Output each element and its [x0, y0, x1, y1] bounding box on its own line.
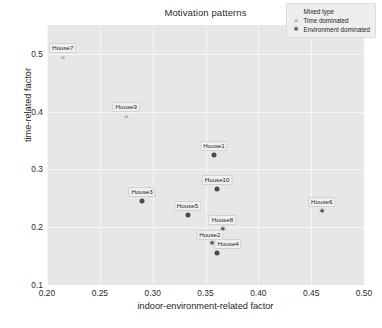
data-point-label-house6: House6	[308, 197, 335, 207]
legend-item-time-dominated[interactable]: × Time dominated	[291, 16, 370, 25]
legend-label-time-dominated: Time dominated	[303, 17, 348, 24]
data-point-label-house7: House7	[49, 43, 76, 53]
data-point-house1[interactable]	[211, 153, 216, 158]
data-point-house6[interactable]: ✶	[318, 208, 325, 215]
y-tick-label: 0.2	[1, 222, 43, 232]
gridline-horizontal	[47, 227, 364, 228]
data-point-label-house4: House4	[214, 239, 241, 249]
x-tick-label: 0.40	[250, 288, 266, 298]
plot-area: House1House10House3House5House4×House7×H…	[47, 25, 364, 285]
gridline-vertical	[311, 25, 312, 285]
x-tick-label: 0.35	[197, 288, 213, 298]
gridline-horizontal	[47, 169, 364, 170]
x-tick-label: 0.45	[303, 288, 319, 298]
gridline-vertical	[153, 25, 154, 285]
gridline-vertical	[100, 25, 101, 285]
data-point-house10[interactable]	[215, 187, 220, 192]
data-point-label-house2: House2	[196, 230, 223, 240]
gridline-vertical	[258, 25, 259, 285]
data-point-label-house8: House8	[209, 215, 236, 225]
y-tick-label: 0.5	[1, 49, 43, 59]
y-tick-label: 0.4	[1, 107, 43, 117]
y-axis-label: time-related factor	[23, 25, 33, 185]
x-tick-label: 0.50	[356, 288, 372, 298]
legend-label-mixed-type: Mixed type	[303, 8, 333, 15]
gridline-vertical	[206, 25, 207, 285]
star-marker-icon: ✶	[291, 26, 300, 33]
data-point-house7[interactable]: ×	[59, 53, 66, 60]
scatter-chart-figure: Motivation patterns House1House10House3H…	[0, 0, 382, 328]
gridline-vertical	[47, 25, 48, 285]
data-point-house9[interactable]: ×	[123, 112, 130, 119]
x-tick-label: 0.20	[39, 288, 55, 298]
cross-marker-icon: ×	[291, 17, 300, 24]
y-tick-label: 0.3	[1, 164, 43, 174]
x-tick-label: 0.25	[92, 288, 108, 298]
data-point-house3[interactable]	[140, 199, 145, 204]
y-axis: 0.10.20.30.40.5	[0, 0, 43, 328]
x-axis-label: indoor-environment-related factor	[47, 301, 364, 311]
data-point-house4[interactable]	[215, 251, 220, 256]
gridline-horizontal	[47, 112, 364, 113]
y-tick-label: 0.1	[1, 280, 43, 290]
x-tick-label: 0.30	[145, 288, 161, 298]
data-point-label-house5: House5	[174, 201, 201, 211]
data-point-label-house3: House3	[128, 187, 155, 197]
gridline-horizontal	[47, 54, 364, 55]
legend-item-environment-dominated[interactable]: ✶ Environment dominated	[291, 25, 370, 34]
data-point-house5[interactable]	[185, 212, 190, 217]
legend-item-mixed-type[interactable]: Mixed type	[291, 7, 370, 16]
data-point-label-house10: House10	[202, 175, 233, 185]
chart-legend: Mixed type × Time dominated ✶ Environmen…	[286, 3, 376, 38]
data-point-house2[interactable]: ✶	[208, 240, 215, 247]
data-point-label-house9: House9	[113, 102, 140, 112]
data-point-label-house1: House1	[200, 141, 227, 151]
legend-label-environment-dominated: Environment dominated	[303, 26, 370, 33]
